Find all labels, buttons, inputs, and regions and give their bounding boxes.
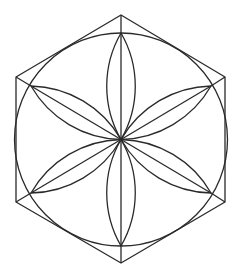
geometric-diagram [0,0,239,274]
vertex-connector-4 [16,193,31,202]
vertex-connector-5 [16,77,31,86]
radial-lines-group [16,15,225,263]
seed-of-life-figure [0,0,239,274]
vertex-connector-2 [211,193,225,202]
vertex-connector-1 [211,77,225,86]
